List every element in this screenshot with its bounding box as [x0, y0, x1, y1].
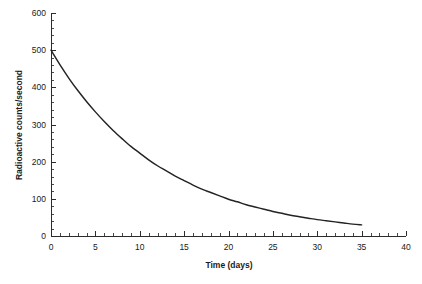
y-tick-label: 400: [32, 82, 46, 92]
y-tick-label: 300: [32, 120, 46, 130]
x-tick-label: 25: [268, 242, 278, 252]
y-axis-title: Radioactive counts/second: [14, 70, 24, 180]
chart-svg: 0510152025303540 0100200300400500600 Tim…: [0, 0, 422, 284]
x-axis-tick-labels: 0510152025303540: [49, 242, 411, 252]
x-tick-label: 30: [313, 242, 323, 252]
x-tick-label: 40: [401, 242, 411, 252]
y-tick-label: 100: [32, 194, 46, 204]
y-axis-major-ticks: [51, 14, 56, 237]
y-axis-tick-labels: 0100200300400500600: [32, 8, 46, 241]
y-tick-label: 200: [32, 157, 46, 167]
y-tick-label: 0: [41, 231, 46, 241]
x-tick-label: 35: [357, 242, 367, 252]
x-tick-label: 15: [179, 242, 189, 252]
decay-curve-line: [51, 50, 362, 225]
y-tick-label: 500: [32, 45, 46, 55]
x-tick-label: 10: [135, 242, 145, 252]
x-tick-label: 20: [224, 242, 234, 252]
x-tick-label: 0: [49, 242, 54, 252]
x-axis-title: Time (days): [205, 260, 252, 270]
decay-chart: 0510152025303540 0100200300400500600 Tim…: [0, 0, 422, 284]
x-tick-label: 5: [93, 242, 98, 252]
y-tick-label: 600: [32, 8, 46, 18]
